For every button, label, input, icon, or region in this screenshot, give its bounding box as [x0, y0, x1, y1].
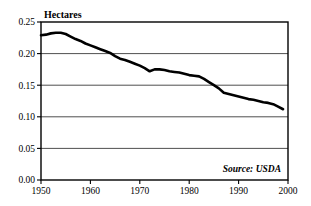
chart-container: 0.000.050.100.150.200.25 195019601970198… — [0, 0, 311, 206]
y-axis-tick-labels: 0.000.050.100.150.200.25 — [18, 17, 35, 185]
y-tick-label: 0.00 — [18, 175, 35, 185]
plot-frame — [41, 22, 288, 180]
source-annotation: Source: USDA — [223, 164, 281, 174]
y-tick-label: 0.10 — [18, 112, 35, 122]
y-axis-title: Hectares — [44, 9, 82, 20]
x-tick-label: 1970 — [130, 186, 149, 196]
x-axis-tick-labels: 195019601970198019902000 — [32, 186, 298, 196]
data-series — [41, 33, 283, 109]
grainland-per-person-line-chart: 0.000.050.100.150.200.25 195019601970198… — [0, 0, 311, 206]
series-line — [41, 33, 283, 109]
x-tick-label: 2000 — [279, 186, 298, 196]
y-tick-label: 0.20 — [18, 49, 35, 59]
y-tick-label: 0.05 — [18, 144, 35, 154]
x-tick-label: 1950 — [32, 186, 51, 196]
x-tick-label: 1990 — [229, 186, 248, 196]
gridlines — [41, 54, 288, 149]
x-tick-label: 1980 — [180, 186, 199, 196]
y-tick-label: 0.25 — [18, 17, 35, 27]
y-tick-label: 0.15 — [18, 81, 35, 91]
x-tick-label: 1960 — [81, 186, 100, 196]
